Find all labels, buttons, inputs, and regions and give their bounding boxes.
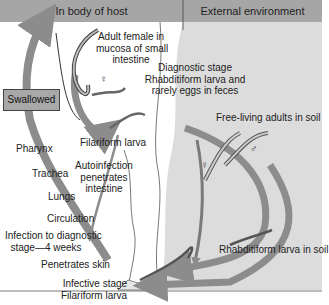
label-adult-female: Adult female in mucosa of small intestin… (96, 31, 166, 66)
label-diagnostic-stage: Diagnostic stage Rhabditiform larva and … (135, 62, 255, 97)
rhabditiform-larva-worm (92, 88, 125, 95)
female-symbol-soil: ♀ (201, 159, 209, 171)
filariform-larva-worm (110, 113, 145, 128)
header-external: External environment (183, 0, 322, 22)
label-trachea: Trachea (32, 168, 68, 180)
label-infective-stage: Infective stage Filariform larva (61, 278, 127, 301)
label-lungs: Lungs (48, 191, 75, 203)
swallowed-box: Swallowed (3, 89, 60, 111)
label-infection-time: Infection to diagnostic stage—4 weeks (5, 230, 87, 253)
header-host: In body of host (0, 0, 183, 22)
label-autoinfection: Autoinfection penetrates intestine (74, 160, 134, 195)
label-pharynx: Pharynx (16, 143, 53, 155)
female-symbol: ♀ (100, 73, 108, 85)
label-circulation: Circulation (47, 213, 94, 225)
label-free-living-adults: Free-living adults in soil (216, 112, 321, 124)
label-penetrates-skin: Penetrates skin (41, 259, 110, 271)
label-filariform-larva: Filariform larva (80, 137, 146, 149)
male-symbol-soil: ♂ (250, 143, 258, 155)
label-rhabditiform-soil: Rhabditiform larva in soil (219, 244, 329, 256)
